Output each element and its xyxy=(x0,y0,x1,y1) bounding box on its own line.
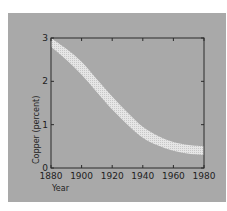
x-tick-label: 1940 xyxy=(131,171,154,181)
x-axis: 188019001920194019601980 xyxy=(40,38,216,181)
band-area xyxy=(51,38,204,155)
y-axis-label: Copper (percent) xyxy=(32,96,41,164)
y-tick-label: 0 xyxy=(42,163,48,173)
x-tick-label: 1960 xyxy=(162,171,185,181)
x-tick-label: 1980 xyxy=(193,171,216,181)
x-tick-label: 1920 xyxy=(101,171,124,181)
y-tick-label: 1 xyxy=(42,120,48,130)
x-axis-label: Year xyxy=(51,184,70,193)
x-tick-label: 1900 xyxy=(70,171,93,181)
copper-chart: 188019001920194019601980 0123 Year Coppe… xyxy=(0,0,227,211)
y-tick-label: 3 xyxy=(42,33,48,43)
copper-percent-band xyxy=(51,38,204,155)
y-tick-label: 2 xyxy=(42,76,48,86)
